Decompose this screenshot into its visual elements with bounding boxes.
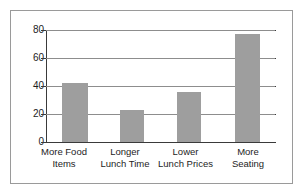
x-label-longer-lunch-time: Longer Lunch Time bbox=[93, 146, 157, 169]
x-label-lower-lunch-prices: Lower Lunch Prices bbox=[150, 146, 221, 169]
bar-more-food-items bbox=[62, 83, 88, 142]
bar-lower-lunch-prices bbox=[177, 92, 201, 142]
x-label-line-2: Lunch Prices bbox=[150, 158, 221, 170]
x-axis-line bbox=[46, 142, 276, 143]
bar-longer-lunch-time bbox=[120, 110, 144, 142]
gridline-80 bbox=[46, 30, 275, 31]
x-label-more-seating: More Seating bbox=[218, 146, 278, 169]
x-label-line-2: Seating bbox=[218, 158, 278, 170]
x-label-line-2: Items bbox=[33, 158, 95, 170]
x-label-line-1: Lower bbox=[150, 146, 221, 158]
x-label-line-1: More bbox=[218, 146, 278, 158]
x-label-line-2: Lunch Time bbox=[93, 158, 157, 170]
x-label-line-1: Longer bbox=[93, 146, 157, 158]
chart-screenshot: 80 60 40 20 0 bbox=[0, 0, 303, 194]
bar-chart-figure: 80 60 40 20 0 bbox=[0, 0, 303, 194]
x-label-line-1: More Food bbox=[33, 146, 95, 158]
plot-area bbox=[46, 30, 275, 142]
x-label-more-food-items: More Food Items bbox=[33, 146, 95, 169]
bar-more-seating bbox=[235, 34, 260, 142]
